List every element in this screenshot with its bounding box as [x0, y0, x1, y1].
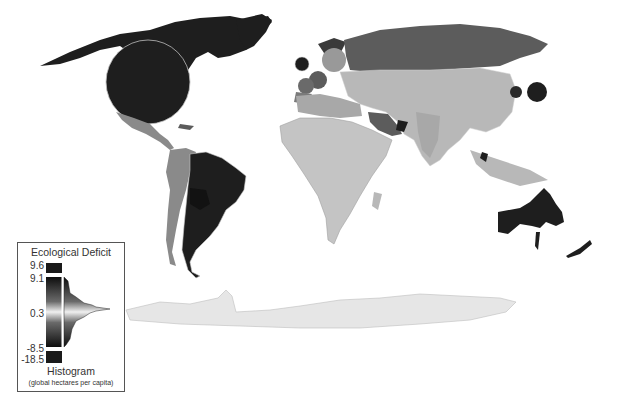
usa-circle [106, 40, 190, 124]
brazil-venezuela-region [182, 152, 246, 278]
legend-tick-lower: -8.5 [16, 343, 44, 354]
oceania [498, 188, 592, 258]
legend-tick-min: -18.5 [16, 354, 44, 365]
france-circle [298, 78, 314, 94]
legend-subtitle: Histogram [18, 365, 124, 377]
north-america [40, 14, 272, 150]
sub-saharan-africa [280, 118, 392, 244]
legend-unit: (global hectares per capita) [18, 379, 124, 386]
legend: Ecological Deficit 9.6 9.1 0.3 -8.5 -18.… [17, 242, 125, 392]
madagascar [372, 192, 382, 210]
histogram-shape [64, 277, 110, 347]
legend-bar [46, 277, 62, 347]
japan-circle [527, 82, 547, 102]
russia [344, 24, 548, 72]
legend-tick-upper: 9.1 [16, 273, 44, 284]
south-america [166, 148, 246, 278]
legend-bottom-block [46, 351, 62, 363]
antarctica [126, 290, 516, 328]
legend-tick-mid: 0.3 [16, 308, 44, 319]
australia [498, 188, 564, 234]
tasmania [535, 232, 540, 250]
legend-top-block [46, 263, 62, 273]
korea-circle [510, 86, 522, 98]
legend-histogram [46, 259, 118, 365]
eastern-europe-circle [322, 48, 346, 72]
new-zealand [566, 240, 592, 258]
caribbean [178, 124, 194, 130]
uk-circle [295, 57, 309, 71]
legend-title: Ecological Deficit [18, 246, 124, 258]
legend-tick-max: 9.6 [16, 260, 44, 271]
